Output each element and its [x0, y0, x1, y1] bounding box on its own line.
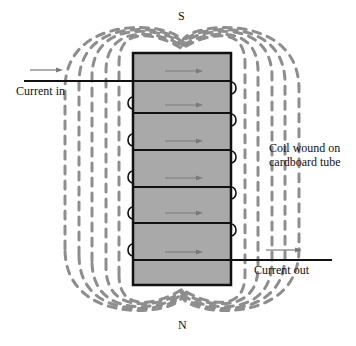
north-pole-label: N — [178, 319, 187, 332]
coil-label-line2: cardboard tube — [269, 156, 341, 169]
cardboard-tube — [133, 53, 231, 285]
field-diagram-svg — [0, 0, 356, 346]
south-pole-label: S — [178, 10, 185, 23]
coil-label-line1: Coil wound on — [269, 142, 340, 155]
tube-body — [133, 53, 231, 285]
current-in-arrow-head — [56, 68, 63, 73]
solenoid-diagram: S N Current in Current out Coil wound on… — [0, 0, 356, 346]
current-in-label: Current in — [16, 85, 65, 98]
current-out-label: Current out — [254, 264, 309, 277]
